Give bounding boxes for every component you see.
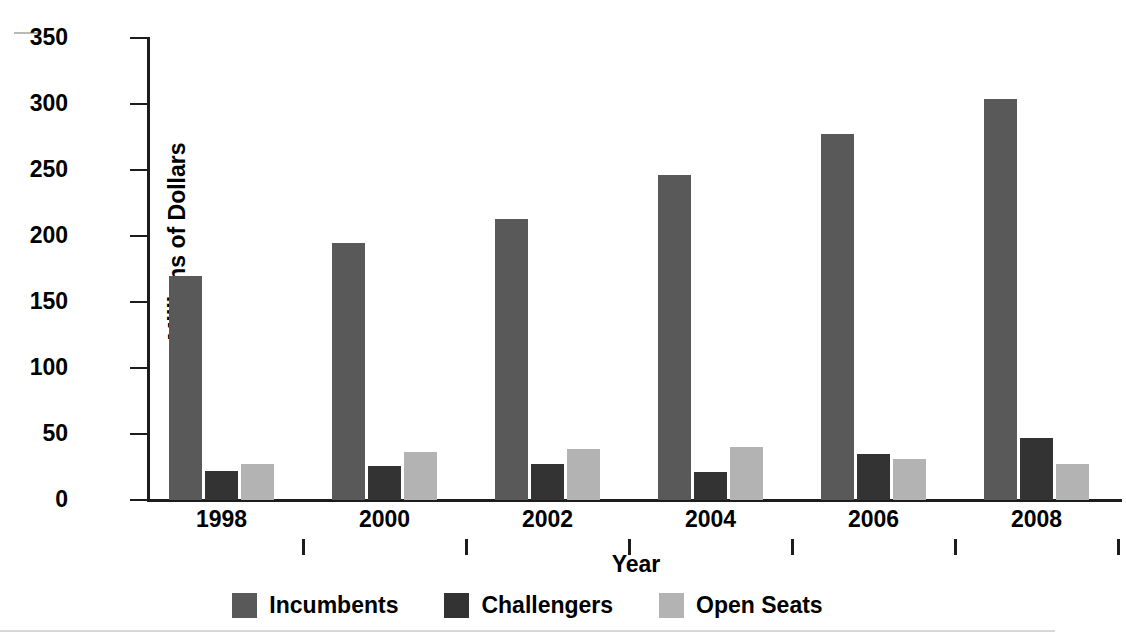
y-axis-tick-label: 50: [0, 422, 68, 445]
x-axis-tick-label: 1998: [129, 506, 314, 533]
y-axis-tick: [130, 499, 147, 501]
x-axis-tick-label: 2000: [292, 506, 477, 533]
y-axis-tick-label: 200: [0, 224, 68, 247]
y-axis-tick-label: 100: [0, 356, 68, 379]
y-axis-tick-label: 150: [0, 290, 68, 313]
bar: [169, 276, 202, 500]
y-axis-tick: [130, 367, 147, 369]
legend-label: Challengers: [481, 592, 613, 619]
bar: [730, 447, 763, 500]
bar: [984, 99, 1017, 500]
legend-item[interactable]: Incumbents: [232, 592, 398, 619]
bar: [567, 449, 600, 500]
bar-group: [821, 38, 926, 500]
bar: [893, 459, 926, 500]
bar-group: [984, 38, 1089, 500]
bar: [821, 134, 854, 500]
y-axis-tick: [130, 169, 147, 171]
x-axis-tick-label: 2004: [618, 506, 803, 533]
x-axis-tick-label: 2006: [781, 506, 966, 533]
bar-group: [332, 38, 437, 500]
y-axis-tick: [130, 37, 147, 39]
bar: [495, 219, 528, 500]
bar: [658, 175, 691, 500]
x-axis-tick-label: 2008: [944, 506, 1126, 533]
y-axis-tick: [130, 433, 147, 435]
legend-swatch-icon: [232, 593, 257, 618]
y-axis-tick: [130, 235, 147, 237]
legend-swatch-icon: [444, 593, 469, 618]
bar: [404, 452, 437, 500]
legend-label: Open Seats: [696, 592, 823, 619]
bar-group: [658, 38, 763, 500]
x-axis-tick-label: 2002: [455, 506, 640, 533]
bar: [368, 466, 401, 500]
legend-swatch-icon: [659, 593, 684, 618]
plot-area: Millions of Dollars 05010015020025030035…: [147, 38, 1125, 500]
bar: [1056, 464, 1089, 500]
page-bottom-rule: [0, 630, 1055, 632]
y-axis-tick: [130, 103, 147, 105]
bar: [531, 464, 564, 500]
y-axis-tick: [130, 301, 147, 303]
bar: [1020, 438, 1053, 500]
y-axis-tick-label: 0: [0, 488, 68, 511]
bar-group: [169, 38, 274, 500]
bar: [241, 464, 274, 500]
x-axis-title: Year: [147, 551, 1125, 578]
chart-legend: IncumbentsChallengersOpen Seats: [0, 592, 1055, 619]
bar: [857, 454, 890, 500]
bar: [205, 471, 238, 500]
y-axis-tick-label: 300: [0, 92, 68, 115]
y-axis-tick-label: 250: [0, 158, 68, 181]
legend-item[interactable]: Open Seats: [659, 592, 823, 619]
bar: [332, 243, 365, 500]
bar-group: [495, 38, 600, 500]
bar: [694, 472, 727, 500]
legend-item[interactable]: Challengers: [444, 592, 613, 619]
legend-label: Incumbents: [269, 592, 398, 619]
y-axis-tick-label: 350: [0, 26, 68, 49]
